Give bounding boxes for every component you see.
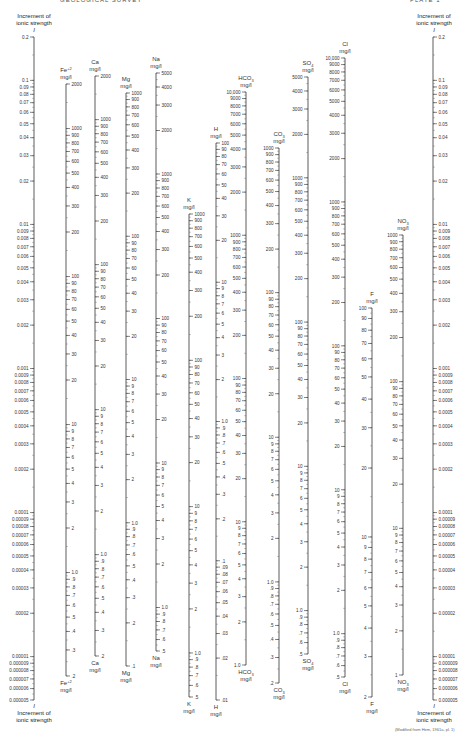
tick-label: 900 bbox=[332, 206, 340, 211]
tick-label: 700 bbox=[195, 234, 203, 239]
tick-label: 4 bbox=[364, 626, 367, 631]
tick-label: 2000 bbox=[72, 82, 83, 87]
tick-label: 80 bbox=[195, 372, 201, 377]
tick-label: 0.01 bbox=[20, 222, 29, 227]
tick-label: .6 bbox=[299, 640, 303, 645]
tick-label: 0.03 bbox=[20, 153, 29, 158]
tick-label: 9000 bbox=[230, 96, 241, 101]
axis-label-cl: Cl bbox=[342, 681, 348, 687]
tick-label: 900 bbox=[72, 133, 80, 138]
tick-label: 0.000008 bbox=[439, 668, 459, 673]
tick-label: 70 bbox=[132, 256, 138, 261]
tick-label: 500 bbox=[332, 243, 340, 248]
tick-label: 0.000006 bbox=[439, 686, 459, 691]
tick-label: 9 bbox=[364, 545, 367, 550]
tick-label: 30 bbox=[222, 214, 228, 219]
tick-label: 0.00008 bbox=[12, 524, 29, 529]
tick-label: 900 bbox=[390, 240, 398, 245]
tick-label: 4000 bbox=[329, 113, 340, 118]
tick-label: .4 bbox=[270, 637, 274, 642]
axis-unit: mg/l bbox=[302, 665, 313, 671]
tick-label: 600 bbox=[233, 265, 241, 270]
axis-label-fe: Fe+2 bbox=[60, 679, 72, 686]
tick-label: .06 bbox=[222, 589, 229, 594]
tick-label: 2 bbox=[238, 620, 241, 625]
tick-label: 0.05 bbox=[20, 122, 29, 127]
tick-label: 1.0 bbox=[162, 605, 169, 610]
tick-label: 20 bbox=[72, 378, 78, 383]
tick-label: .9 bbox=[101, 559, 105, 564]
tick-label: 100 bbox=[72, 274, 80, 279]
axis-label-cl: Cl bbox=[342, 41, 348, 47]
axis-i_right: 0.20.10.090.080.070.060.050.040.030.020.… bbox=[433, 35, 458, 703]
tick-label: 10 bbox=[235, 520, 241, 525]
tick-label: 0.00006 bbox=[12, 542, 29, 547]
tick-label: .8 bbox=[270, 594, 274, 599]
tick-label: 800 bbox=[332, 214, 340, 219]
tick-label: .04 bbox=[222, 614, 229, 619]
tick-label: 20 bbox=[235, 476, 241, 481]
tick-label: 400 bbox=[233, 290, 241, 295]
tick-label: 20 bbox=[361, 466, 367, 471]
tick-label: 500 bbox=[233, 276, 241, 281]
tick-label: 70 bbox=[162, 339, 168, 344]
tick-label: 1000 bbox=[387, 233, 398, 238]
tick-label: 8 bbox=[238, 533, 241, 538]
tick-label: 5 bbox=[222, 322, 225, 327]
tick-label: 0.09 bbox=[20, 85, 29, 90]
tick-label: 0.00003 bbox=[12, 586, 29, 591]
tick-label: 3 bbox=[222, 353, 225, 358]
tick-label: 2 bbox=[195, 607, 198, 612]
axis-unit: mg/l bbox=[240, 676, 251, 682]
tick-label: 6 bbox=[101, 440, 104, 445]
tick-label: 300 bbox=[195, 288, 203, 293]
tick-label: 1.0 bbox=[101, 552, 108, 557]
tick-label: 1.0 bbox=[222, 419, 229, 424]
tick-label: 900 bbox=[132, 97, 140, 102]
tick-label: 9 bbox=[132, 384, 135, 389]
tick-label: 400 bbox=[266, 203, 274, 208]
tick-label: 40 bbox=[361, 397, 367, 402]
tick-label: 80 bbox=[101, 277, 107, 282]
tick-label: 0.008 bbox=[17, 236, 29, 241]
tick-label: 200 bbox=[295, 276, 303, 281]
tick-label: 500 bbox=[195, 256, 203, 261]
tick-label: 3 bbox=[195, 581, 198, 586]
tick-label: .1 bbox=[222, 559, 226, 564]
tick-label: 9 bbox=[337, 494, 340, 499]
tick-label: 1000 bbox=[329, 200, 340, 205]
tick-label: 90 bbox=[222, 147, 228, 152]
tick-label: 90 bbox=[235, 383, 241, 388]
tick-label: 9 bbox=[72, 429, 75, 434]
tick-label: 10,000 bbox=[325, 56, 339, 61]
tick-label: 200 bbox=[233, 333, 241, 338]
tick-label: 7 bbox=[271, 457, 274, 462]
tick-label: 10 bbox=[72, 422, 78, 427]
tick-label: .3 bbox=[132, 595, 136, 600]
tick-label: 70 bbox=[235, 398, 241, 403]
tick-label: .7 bbox=[132, 543, 136, 548]
tick-label: 10 bbox=[361, 535, 367, 540]
tick-label: 0.00007 bbox=[439, 533, 456, 538]
tick-label: 9 bbox=[395, 533, 398, 538]
axis-h: 100908070605040302010987654321.0.9.8.7.6… bbox=[210, 126, 229, 717]
tick-label: 90 bbox=[132, 241, 138, 246]
tick-label: 800 bbox=[266, 160, 274, 165]
tick-label: .7 bbox=[101, 575, 105, 580]
tick-label: .7 bbox=[195, 673, 199, 678]
tick-label: 50 bbox=[195, 402, 201, 407]
tick-label: 0.000006 bbox=[9, 686, 29, 691]
tick-label: .9 bbox=[72, 577, 76, 582]
tick-label: .8 bbox=[336, 645, 340, 650]
tick-label: 30 bbox=[72, 352, 78, 357]
tick-label: 10 bbox=[132, 377, 138, 382]
axis-unit: mg/l bbox=[273, 694, 284, 700]
tick-label: 7000 bbox=[230, 112, 241, 117]
axis-label-f: F bbox=[370, 291, 374, 297]
tick-label: 10 bbox=[195, 504, 201, 509]
tick-label: 500 bbox=[101, 161, 109, 166]
tick-label: 50 bbox=[297, 363, 303, 368]
tick-label: .00002 bbox=[14, 611, 28, 616]
tick-label: 90 bbox=[297, 326, 303, 331]
tick-label: 800 bbox=[132, 105, 140, 110]
